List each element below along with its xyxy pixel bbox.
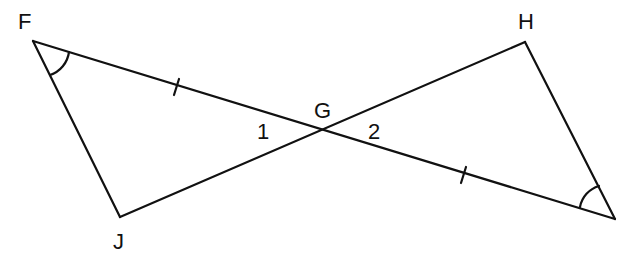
label-j: J [113, 229, 124, 254]
geometry-diagram: F J G H 1 2 [0, 0, 621, 254]
label-f: F [18, 9, 31, 34]
tick-mark-gk [461, 167, 466, 183]
segment-fj [33, 41, 120, 217]
tick-mark-fg [174, 79, 179, 95]
label-g: G [314, 98, 331, 123]
angle-arc-f [50, 52, 69, 75]
angle-label-1: 1 [257, 119, 269, 144]
segment-jh [120, 42, 525, 217]
angle-arc-k [580, 186, 599, 207]
angle-label-2: 2 [368, 119, 380, 144]
label-h: H [518, 9, 534, 34]
segment-hk [525, 42, 615, 219]
